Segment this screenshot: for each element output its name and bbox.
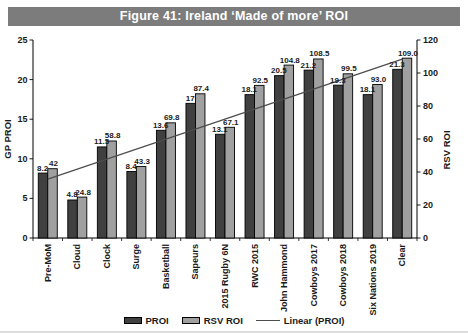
proi-bar bbox=[38, 173, 48, 238]
figure-frame: Figure 41: Ireland ‘Made of more’ ROI 05… bbox=[0, 0, 468, 333]
proi-bar bbox=[127, 171, 137, 238]
category-label: Clear bbox=[397, 244, 407, 267]
proi-bar bbox=[216, 134, 226, 238]
rsv-roi-bar bbox=[284, 65, 294, 238]
category-label: John Hammond bbox=[279, 244, 289, 312]
legend-item: RSV ROI bbox=[182, 315, 243, 326]
rsv-roi-data-label: 42 bbox=[49, 159, 58, 168]
left-axis-title: GP PROI bbox=[2, 119, 13, 158]
right-axis-tick-label: 120 bbox=[423, 35, 438, 45]
category-label: Cowboys 2017 bbox=[309, 244, 319, 307]
rsv-roi-bar bbox=[136, 167, 146, 238]
proi-bar bbox=[363, 95, 373, 238]
right-axis-tick-label: 100 bbox=[423, 68, 438, 78]
left-axis-tick-label: 5 bbox=[22, 193, 27, 203]
rsv-roi-data-label: 108.5 bbox=[309, 49, 330, 58]
proi-bar bbox=[334, 85, 344, 238]
rsv-roi-bar bbox=[343, 74, 353, 238]
category-label: RWC 2015 bbox=[250, 244, 260, 288]
left-axis-tick-label: 0 bbox=[22, 233, 27, 243]
roi-bar-chart: 0510152025020406080100120GP PROIRSV ROI8… bbox=[0, 0, 468, 333]
category-label: Cloud bbox=[72, 244, 82, 270]
left-axis-tick-label: 20 bbox=[17, 75, 27, 85]
category-label: Clock bbox=[102, 243, 112, 269]
rsv-roi-data-label: 93.0 bbox=[371, 75, 387, 84]
left-axis-tick-label: 15 bbox=[17, 114, 27, 124]
legend-label: RSV ROI bbox=[204, 315, 243, 326]
proi-data-label: 19.3 bbox=[330, 76, 346, 85]
proi-data-label: 20.5 bbox=[271, 66, 287, 75]
rsv-roi-bar bbox=[225, 127, 235, 238]
legend-item: PROI bbox=[124, 315, 169, 326]
proi-data-label: 18.1 bbox=[360, 85, 376, 94]
proi-data-label: 17 bbox=[186, 94, 195, 103]
rsv-roi-data-label: 104.8 bbox=[280, 56, 301, 65]
rsv-roi-data-label: 109.0 bbox=[398, 49, 419, 58]
rsv-roi-data-label: 58.8 bbox=[105, 131, 121, 140]
trendline-legend-swatch bbox=[256, 320, 280, 321]
left-axis-tick-label: 25 bbox=[17, 35, 27, 45]
category-label: Cowboys 2018 bbox=[338, 244, 348, 307]
rsv-roi-bar bbox=[77, 197, 87, 238]
category-label: Surge bbox=[131, 244, 141, 270]
right-axis-tick-label: 80 bbox=[423, 101, 433, 111]
rsv-roi-data-label: 99.5 bbox=[341, 64, 357, 73]
right-axis-tick-label: 60 bbox=[423, 134, 433, 144]
proi-legend-swatch bbox=[124, 317, 142, 324]
left-axis-tick-label: 10 bbox=[17, 154, 27, 164]
proi-bar bbox=[393, 69, 403, 238]
rsv-roi-legend-swatch bbox=[182, 317, 200, 324]
right-axis-tick-label: 0 bbox=[423, 233, 428, 243]
proi-bar bbox=[304, 70, 314, 238]
rsv-roi-data-label: 67.1 bbox=[223, 118, 239, 127]
rsv-roi-data-label: 69.8 bbox=[164, 113, 180, 122]
rsv-roi-bar bbox=[195, 94, 205, 238]
right-axis-tick-label: 20 bbox=[423, 200, 433, 210]
category-label: Pre-MoM bbox=[43, 244, 53, 282]
rsv-roi-data-label: 43.3 bbox=[134, 157, 150, 166]
proi-bar bbox=[156, 130, 166, 238]
rsv-roi-data-label: 92.5 bbox=[252, 76, 268, 85]
legend-item: Linear (PROI) bbox=[256, 315, 345, 326]
chart-legend: PROIRSV ROILinear (PROI) bbox=[0, 312, 468, 328]
proi-data-label: 8.2 bbox=[37, 164, 49, 173]
proi-bar bbox=[245, 95, 255, 238]
legend-label: PROI bbox=[146, 315, 169, 326]
rsv-roi-bar bbox=[402, 58, 412, 238]
legend-label: Linear (PROI) bbox=[284, 315, 345, 326]
category-label: Sapeurs bbox=[190, 244, 200, 280]
proi-data-label: 21.2 bbox=[301, 61, 317, 70]
rsv-roi-data-label: 87.4 bbox=[193, 84, 209, 93]
rsv-roi-bar bbox=[373, 85, 383, 238]
rsv-roi-bar bbox=[166, 123, 176, 238]
proi-data-label: 18.1 bbox=[241, 85, 257, 94]
proi-data-label: 21.3 bbox=[389, 60, 405, 69]
proi-bar bbox=[186, 103, 196, 238]
right-axis-tick-label: 40 bbox=[423, 167, 433, 177]
rsv-roi-data-label: 24.8 bbox=[75, 188, 91, 197]
rsv-roi-bar bbox=[107, 141, 117, 238]
category-label: Six Nations 2019 bbox=[368, 244, 378, 316]
proi-bar bbox=[68, 200, 78, 238]
category-label: 2015 Rugby 6N bbox=[220, 244, 230, 309]
category-label: Basketball bbox=[161, 244, 171, 289]
right-axis-title: RSV ROI bbox=[441, 130, 452, 169]
